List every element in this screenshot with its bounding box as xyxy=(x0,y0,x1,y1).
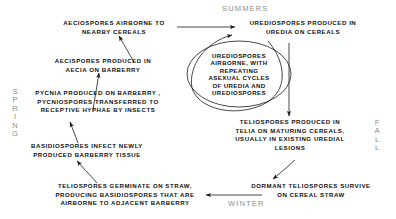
node-teliospores-produced: TELIOSPORES PRODUCED IN TELIA ON MATURIN… xyxy=(216,118,364,152)
node-urediospores-cycle: UREDIOSPORES AIRBORNE, WITH REPEATING AS… xyxy=(197,52,281,96)
node-aeciospores-produced: AECISPORES PRODUCED IN AECIA ON BARBERRY xyxy=(41,57,165,74)
node-teliospores-germinate: TELIOSPORES GERMINATE ON STRAW, PRODUCIN… xyxy=(42,182,208,208)
node-pycnia-produced: PYCNIA PRODUCED ON BARBERRY , PYCNIOSPOR… xyxy=(19,89,177,115)
season-label-summers: SUMMERS xyxy=(222,4,269,13)
season-label-fall: F A L L xyxy=(372,119,382,153)
node-aeciospores-airborne: AECIOSPORES AIRBORNE TO NEARBY CEREALS xyxy=(52,19,176,36)
arrow-germinate-to-basidiospores xyxy=(77,161,97,183)
node-dormant-teliospores: DORMANT TELIOSPORES SURVIVE ON CEREAL ST… xyxy=(240,182,382,199)
arrow-basidiospores-to-pycnia xyxy=(70,122,78,143)
node-urediospores-produced: UREDIOSPORES PRODUCED IN UREDIA ON CEREA… xyxy=(237,19,369,36)
arrow-telia-to-dormant xyxy=(273,160,295,179)
stem-rust-life-cycle-diagram: SUMMERS S P R I N G F A L L WINTER AECIO… xyxy=(0,0,396,219)
node-basidiospores-infect: BASIDIOSPORES INFECT NEWLY PRODUCED BARB… xyxy=(16,142,158,159)
season-label-winter: WINTER xyxy=(228,199,265,208)
